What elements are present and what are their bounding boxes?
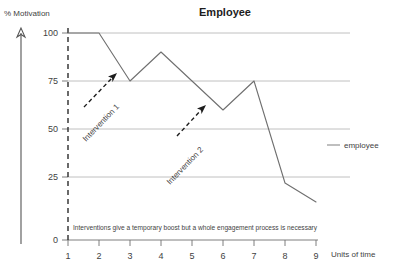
chart-title: Employee [199,6,251,18]
intervention-1-annotation: Intervention 1 [81,73,122,143]
y-tick-label: 0 [53,235,58,245]
intervention-2-label: Intervention 2 [165,145,206,187]
x-tick-label: 3 [127,251,132,261]
x-axis: 1 2 3 4 5 6 7 8 9 [65,240,318,261]
legend-label-employee: employee [344,141,379,150]
x-tick-label: 8 [282,251,287,261]
x-tick-label: 4 [158,251,163,261]
x-tick-label: 5 [189,251,194,261]
x-tick-label: 2 [96,251,101,261]
chart-container: Employee % Motivation 100 75 50 25 0 [0,0,401,274]
y-tick-label: 50 [48,124,58,134]
y-tick-label: 100 [43,28,58,38]
x-tick-label: 7 [251,251,256,261]
x-axis-label: Units of time [331,250,376,259]
intervention-2-annotation: Intervention 2 [165,105,206,186]
intervention-1-label: Intervention 1 [81,102,122,144]
x-tick-label: 1 [65,251,70,261]
employee-motivation-line-chart: Employee % Motivation 100 75 50 25 0 [0,0,401,274]
y-tick-label: 25 [48,172,58,182]
y-axis: 100 75 50 25 0 [43,28,68,245]
x-tick-label: 6 [220,251,225,261]
chart-caption: Interventions give a temporary boost but… [73,224,318,232]
y-axis-label: % Motivation [4,9,50,18]
y-tick-label: 75 [48,76,58,86]
chart-legend: employee [327,141,379,150]
gridlines [68,33,350,177]
motivation-up-arrow-icon [17,28,25,244]
x-tick-label: 9 [313,251,318,261]
